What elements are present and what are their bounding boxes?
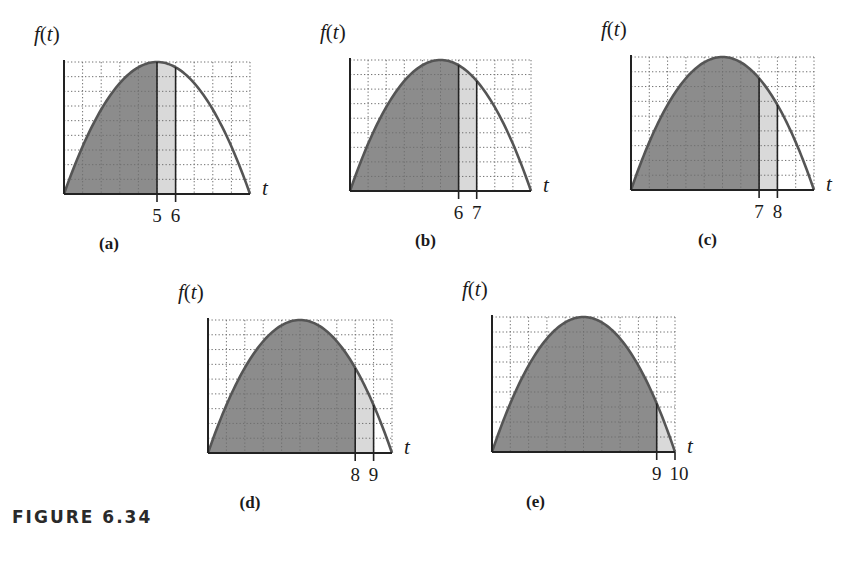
tick-label-b: 10 — [670, 463, 689, 485]
shaded-region-dark — [492, 317, 657, 452]
x-axis-label: t — [687, 434, 693, 459]
plot-e — [0, 0, 860, 561]
tick-label-a: 9 — [652, 463, 662, 485]
figure-caption: FIGURE 6.34 — [12, 507, 152, 527]
panel-sublabel: (e) — [526, 492, 545, 512]
y-axis-label: f(t) — [462, 277, 488, 302]
